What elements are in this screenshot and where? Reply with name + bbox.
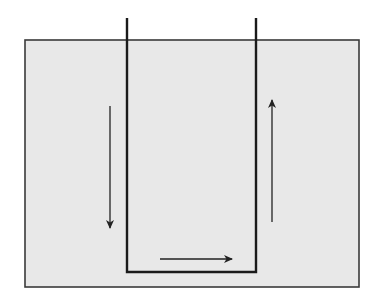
- u-tube-flow-diagram: [0, 0, 376, 299]
- container-box: [25, 40, 359, 287]
